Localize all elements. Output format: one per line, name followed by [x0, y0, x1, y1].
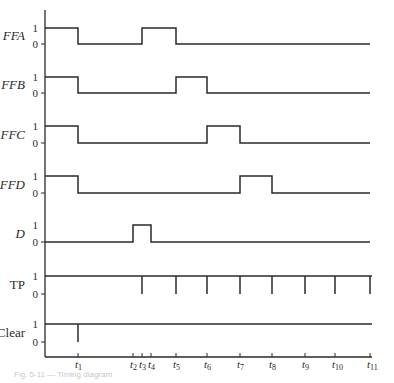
time-label: t6: [204, 358, 211, 372]
signal-ffb: FFB10: [0, 71, 370, 99]
figure-caption: Fig. 5-11 — Timing diagram: [14, 370, 112, 379]
level-1-label: 1: [33, 120, 39, 132]
signals-group: FFA10FFB10FFC10FFD10D10TP10Clear10: [0, 22, 372, 348]
time-label: t3: [139, 358, 146, 372]
time-label: t10: [332, 358, 343, 372]
time-label: t5: [173, 358, 180, 372]
signal-label: D: [15, 226, 26, 241]
signal-label: FFB: [0, 77, 25, 92]
signal-label: FFC: [0, 127, 25, 142]
level-0-label: 0: [33, 236, 39, 248]
waveform: [45, 126, 370, 143]
level-1-label: 1: [33, 270, 39, 282]
signal-clear: Clear10: [0, 318, 372, 348]
time-label: t9: [302, 358, 309, 372]
level-0-label: 0: [33, 137, 39, 149]
signal-label: TP: [10, 277, 25, 292]
time-label: t11: [367, 358, 378, 372]
waveform: [45, 77, 370, 93]
time-label: t8: [269, 358, 276, 372]
level-0-label: 0: [33, 38, 39, 50]
level-1-label: 1: [33, 22, 39, 34]
level-0-label: 0: [33, 288, 39, 300]
signal-tp: TP10: [10, 270, 372, 300]
time-label: t7: [237, 358, 244, 372]
timing-diagram: FFA10FFB10FFC10FFD10D10TP10Clear10 t1t2t…: [0, 0, 394, 383]
level-0-label: 0: [33, 336, 39, 348]
level-0-label: 0: [33, 87, 39, 99]
level-1-label: 1: [33, 318, 39, 330]
waveform: [45, 28, 370, 44]
signal-label: FFD: [0, 177, 26, 192]
signal-d: D10: [15, 219, 370, 248]
level-1-label: 1: [33, 71, 39, 83]
time-label: t2: [130, 358, 137, 372]
signal-label: Clear: [0, 325, 26, 340]
time-label: t4: [148, 358, 155, 372]
waveform: [45, 225, 370, 242]
level-1-label: 1: [33, 219, 39, 231]
signal-label: FFA: [2, 28, 25, 43]
signal-ffc: FFC10: [0, 120, 370, 149]
level-1-label: 1: [33, 170, 39, 182]
waveform: [45, 176, 370, 193]
signal-ffa: FFA10: [2, 22, 370, 50]
level-0-label: 0: [33, 187, 39, 199]
signal-ffd: FFD10: [0, 170, 370, 199]
